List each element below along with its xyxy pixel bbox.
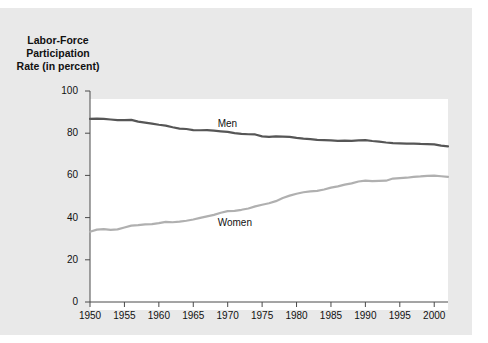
y-tick-label: 40 xyxy=(50,212,78,223)
y-tick-label: 80 xyxy=(50,127,78,138)
series-line-women xyxy=(90,176,448,232)
chart-figure: Labor-Force Participation Rate (in perce… xyxy=(0,8,472,335)
y-tick-label: 20 xyxy=(50,254,78,265)
series-line-men xyxy=(90,119,448,147)
series-label-women: Women xyxy=(218,217,252,228)
y-tick-label: 0 xyxy=(50,296,78,307)
x-tick-label: 2000 xyxy=(414,310,454,321)
y-tick-label: 60 xyxy=(50,169,78,180)
y-tick-label: 100 xyxy=(50,85,78,96)
series-label-men: Men xyxy=(218,118,237,129)
